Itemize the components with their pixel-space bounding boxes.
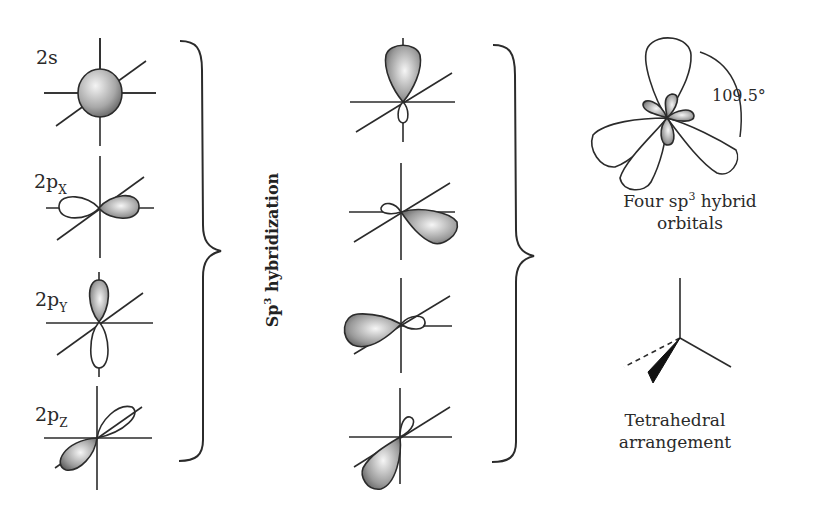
hybridization-label: Sp3 hybridization bbox=[262, 173, 282, 327]
hybrid-orbital-up bbox=[350, 38, 455, 142]
label-2py: 2pY bbox=[35, 288, 67, 315]
right-brace bbox=[492, 45, 534, 462]
label-2px: 2pX bbox=[34, 170, 67, 197]
orbital-2pz bbox=[44, 386, 152, 490]
orbital-2s bbox=[44, 38, 156, 146]
hybrid-orbital-left bbox=[344, 278, 452, 373]
label-2pz: 2pZ bbox=[35, 403, 68, 430]
tetrahedral-arrangement bbox=[624, 278, 731, 383]
hybrid-orbital-right-down bbox=[349, 163, 457, 260]
sp3-hybrid-cluster bbox=[592, 38, 741, 190]
left-brace bbox=[179, 41, 221, 461]
label-2s: 2s bbox=[36, 46, 58, 68]
bond-angle-label: 109.5° bbox=[712, 86, 766, 105]
hybrid-orbital-down-left bbox=[349, 388, 452, 489]
hybrid-caption: Four sp3 hybrid orbitals bbox=[623, 186, 756, 234]
tetrahedral-caption: Tetrahedral arrangement bbox=[619, 409, 731, 453]
